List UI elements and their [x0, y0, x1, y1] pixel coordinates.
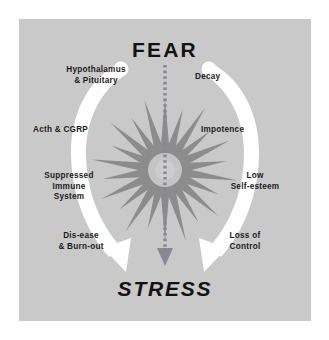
- label-low-self-esteem: Low Self-esteem: [209, 171, 301, 192]
- diagram-panel: FEAR STRESS Hypothalamus & Pituitary Act…: [19, 19, 311, 321]
- label-impotence: Impotence: [201, 125, 291, 136]
- label-decay: Decay: [195, 72, 265, 83]
- page-title-stress: STRESS: [19, 277, 311, 301]
- figure-root: FEAR STRESS Hypothalamus & Pituitary Act…: [0, 0, 329, 340]
- page-title-fear: FEAR: [19, 38, 311, 62]
- label-suppressed-immune-system: Suppressed Immune System: [29, 171, 109, 203]
- label-disease-burnout: Dis-ease & Burn-out: [35, 231, 127, 252]
- label-acth-cgrp: Acth & CGRP: [33, 125, 125, 136]
- label-hypothalamus-pituitary: Hypothalamus & Pituitary: [53, 65, 139, 86]
- label-loss-of-control: Loss of Control: [205, 231, 285, 252]
